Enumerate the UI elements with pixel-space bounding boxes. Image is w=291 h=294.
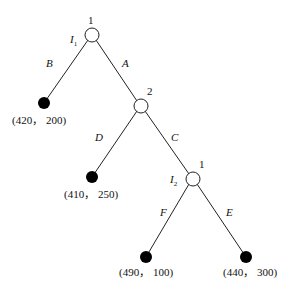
action-label-C: C: [171, 131, 179, 143]
edge-E: [197, 184, 246, 257]
payoff-B: (420， 200): [12, 114, 66, 127]
player-label-n2: 2: [147, 85, 153, 97]
decision-node-root: [85, 28, 99, 42]
payoff-D: (410， 250): [64, 188, 118, 201]
action-label-E: E: [225, 206, 233, 218]
info-set-label-I2: I2: [169, 173, 178, 188]
edge-A: [96, 40, 137, 101]
terminal-node-D: [86, 171, 98, 183]
action-label-F: F: [159, 206, 167, 218]
terminal-node-B: [38, 97, 50, 109]
payoff-E: (440， 300): [223, 266, 277, 279]
player-label-root: 1: [88, 14, 94, 26]
action-label-D: D: [94, 131, 103, 143]
edge-B: [44, 40, 88, 103]
edge-F: [146, 184, 189, 257]
terminal-node-F: [140, 251, 152, 263]
game-tree: 1 2 1 I1 I2 B A D C F E (420， 200) (410，…: [0, 0, 291, 294]
action-label-A: A: [121, 57, 129, 69]
terminal-node-E: [240, 251, 252, 263]
payoff-F: (490， 100): [119, 266, 173, 279]
decision-node-i2: [186, 172, 200, 186]
decision-node-player2: [134, 99, 148, 113]
edge-C: [145, 111, 189, 174]
edge-D: [92, 111, 137, 177]
action-label-B: B: [46, 57, 53, 69]
player-label-n3: 1: [199, 158, 205, 170]
info-set-label-I1: I1: [69, 33, 78, 48]
